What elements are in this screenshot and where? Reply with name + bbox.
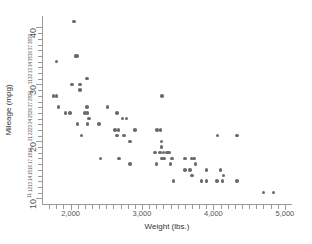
x-tick-minor: [192, 205, 193, 209]
y-tick-minor: [38, 50, 42, 51]
x-tick-label: 2,000: [61, 209, 80, 218]
y-tick-minor: [38, 90, 42, 91]
data-point: [183, 168, 187, 172]
data-point: [190, 174, 194, 178]
x-tick-minor: [185, 205, 186, 209]
y-tick-minor: [38, 73, 42, 74]
data-point: [57, 105, 61, 109]
data-point: [117, 157, 121, 161]
data-point: [128, 140, 132, 144]
data-point: [78, 88, 82, 92]
data-point: [162, 157, 166, 161]
x-tick-minor: [92, 205, 93, 209]
y-tick-minor: [38, 153, 42, 154]
y-axis-title: Mileage (mpg): [4, 84, 13, 135]
x-axis-title: Weight (lbs.): [145, 222, 190, 231]
x-tick-minor: [249, 205, 250, 209]
data-point: [170, 157, 174, 161]
data-point: [215, 179, 219, 183]
y-tick-minor: [38, 45, 42, 46]
y-tick-label-minor: 12: [0, 187, 34, 188]
data-point: [75, 54, 79, 58]
x-tick-minor: [113, 205, 114, 209]
data-point: [172, 179, 176, 183]
data-point: [133, 128, 137, 132]
data-point: [128, 162, 132, 166]
y-tick-label-minor: 13: [0, 181, 34, 182]
y-tick-label-minor: 33: [0, 67, 34, 68]
y-tick-label-minor: 21: [0, 136, 34, 137]
data-point: [70, 83, 74, 87]
data-point: [160, 94, 164, 98]
y-tick-label-minor: 11: [0, 193, 34, 194]
y-axis-line: [42, 16, 43, 204]
x-tick-minor: [263, 205, 264, 209]
x-tick-label: 5,000: [276, 209, 295, 218]
data-point: [183, 157, 187, 161]
x-tick-minor: [106, 205, 107, 209]
x-tick-label: 4,000: [204, 209, 223, 218]
y-tick-label-major: 10: [0, 198, 34, 199]
data-point: [205, 168, 209, 172]
data-point: [160, 140, 164, 144]
y-tick-minor: [38, 158, 42, 159]
data-point: [219, 168, 223, 172]
x-tick-minor: [49, 205, 50, 209]
y-tick-minor: [38, 33, 42, 34]
x-tick-minor: [199, 205, 200, 209]
x-tick-minor: [171, 205, 172, 209]
x-tick-minor: [235, 205, 236, 209]
x-tick-minor: [256, 205, 257, 209]
y-tick-minor: [38, 176, 42, 177]
x-tick-minor: [178, 205, 179, 209]
x-tick-minor: [56, 205, 57, 209]
x-axis-line: [42, 204, 292, 205]
y-tick-minor: [38, 102, 42, 103]
data-point: [160, 145, 164, 149]
y-tick-label-minor: 32: [0, 73, 34, 74]
y-tick-minor: [38, 96, 42, 97]
data-point: [192, 157, 196, 161]
x-tick-minor: [121, 205, 122, 209]
y-tick-minor: [38, 164, 42, 165]
data-point: [68, 111, 72, 115]
y-tick-minor: [38, 170, 42, 171]
y-tick-minor: [38, 130, 42, 131]
x-tick-minor: [242, 205, 243, 209]
plot-area: [42, 16, 292, 204]
data-point: [159, 128, 163, 132]
x-tick-minor: [99, 205, 100, 209]
y-tick-label-minor: 36: [0, 50, 34, 51]
x-tick-minor: [128, 205, 129, 209]
x-tick-minor: [228, 205, 229, 209]
x-tick-minor: [85, 205, 86, 209]
x-tick-label: 3,000: [133, 209, 152, 218]
data-point: [155, 162, 159, 166]
x-tick-minor: [163, 205, 164, 209]
data-point: [188, 168, 192, 172]
data-point: [85, 105, 89, 109]
x-tick-minor: [156, 205, 157, 209]
y-tick-minor: [38, 147, 42, 148]
data-point: [117, 128, 121, 132]
y-tick-minor: [38, 181, 42, 182]
y-tick-minor: [38, 113, 42, 114]
scatter-plot-figure: 1112131415161718192122232425262728293132…: [0, 0, 312, 244]
y-tick-label-minor: 16: [0, 164, 34, 165]
y-tick-label-major: 40: [0, 27, 34, 28]
y-tick-minor: [38, 124, 42, 125]
data-point: [115, 111, 119, 115]
x-tick-minor: [271, 205, 272, 209]
y-tick-minor: [38, 62, 42, 63]
y-tick-minor: [38, 79, 42, 80]
y-tick-minor: [38, 193, 42, 194]
data-point: [205, 179, 209, 183]
y-tick-label-minor: 37: [0, 45, 34, 46]
y-tick-label-major: 20: [0, 141, 34, 142]
data-point: [200, 179, 204, 183]
y-tick-minor: [38, 136, 42, 137]
data-point: [55, 94, 59, 98]
y-tick-minor: [38, 67, 42, 68]
y-tick-minor: [38, 119, 42, 120]
data-point: [78, 83, 82, 87]
